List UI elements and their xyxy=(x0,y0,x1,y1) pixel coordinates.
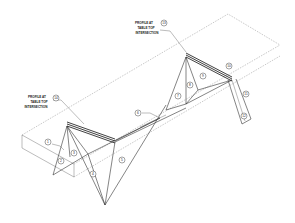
technical-drawing: PROFILE AT TABLE TOP INTERSECTION PROFIL… xyxy=(0,0,295,223)
note-profile-right: PROFILE AT TABLE TOP INTERSECTION xyxy=(135,21,159,35)
callout-13: 13 xyxy=(161,20,167,26)
svg-text:12: 12 xyxy=(242,114,246,118)
svg-text:10: 10 xyxy=(227,64,231,68)
svg-text:13: 13 xyxy=(162,21,166,25)
table-slab xyxy=(22,14,280,177)
callout-6: 6 xyxy=(135,110,141,116)
svg-text:1: 1 xyxy=(47,140,49,144)
svg-text:14: 14 xyxy=(54,96,58,100)
right-flap xyxy=(228,79,251,124)
callout-10: 10 xyxy=(226,63,232,69)
callout-1: 1 xyxy=(45,139,51,145)
callout-14: 14 xyxy=(53,95,59,101)
svg-text:PROFILE AT: PROFILE AT xyxy=(135,21,153,25)
profile-bar-left xyxy=(67,122,115,143)
svg-text:11: 11 xyxy=(244,92,248,96)
callout-2: 2 xyxy=(58,158,64,164)
leader-lines xyxy=(52,30,186,150)
svg-text:8: 8 xyxy=(189,83,191,87)
callout-4: 4 xyxy=(90,171,96,177)
svg-text:INTERSECTION: INTERSECTION xyxy=(135,31,159,35)
svg-text:6: 6 xyxy=(137,111,139,115)
svg-text:TABLE TOP: TABLE TOP xyxy=(137,26,154,30)
right-fold-geometry xyxy=(166,57,232,110)
callout-9: 9 xyxy=(200,73,206,79)
svg-text:4: 4 xyxy=(92,172,94,176)
left-fold-geometry xyxy=(53,105,166,205)
svg-text:TABLE TOP: TABLE TOP xyxy=(30,100,47,104)
svg-text:9: 9 xyxy=(202,74,204,78)
callout-12: 12 xyxy=(241,113,247,119)
callout-5: 5 xyxy=(119,157,125,163)
callout-3: 3 xyxy=(71,150,77,156)
callout-11: 11 xyxy=(243,91,249,97)
svg-text:5: 5 xyxy=(121,158,123,162)
callout-7: 7 xyxy=(175,93,181,99)
svg-text:2: 2 xyxy=(60,159,62,163)
note-profile-left: PROFILE AT TABLE TOP INTERSECTION xyxy=(24,95,48,109)
svg-text:INTERSECTION: INTERSECTION xyxy=(24,105,48,109)
callout-8: 8 xyxy=(187,82,193,88)
svg-text:3: 3 xyxy=(73,151,75,155)
svg-text:PROFILE AT: PROFILE AT xyxy=(28,95,46,99)
svg-text:7: 7 xyxy=(177,94,179,98)
